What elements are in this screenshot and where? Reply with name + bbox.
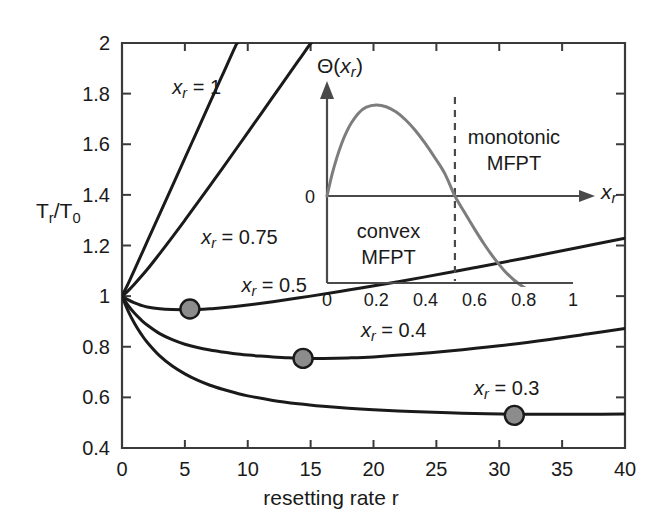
x-tick-label: 40	[614, 458, 636, 480]
inset-y-axis-title: Θ(xr)	[317, 54, 363, 80]
y-tick-label: 1.8	[82, 83, 110, 105]
inset-region-label-line1: convex	[357, 220, 420, 242]
inset-x-tick-label: 0.2	[364, 290, 389, 310]
y-tick-label: 2	[99, 32, 110, 54]
x-tick-label: 15	[300, 458, 322, 480]
y-tick-label: 0.4	[82, 437, 110, 459]
series-label: xr = 0.3	[473, 377, 539, 402]
series-label: xr = 0.5	[240, 274, 306, 299]
figure-container: 0510152025303540 0.40.60.811.21.41.61.82…	[0, 0, 662, 530]
inset-region-label-line2: MFPT	[361, 246, 415, 268]
optimal-point-marker	[505, 406, 524, 425]
y-tick-label: 1.6	[82, 133, 110, 155]
series-label: xr = 0.4	[360, 319, 426, 344]
inset-x-tick-label: 0	[322, 290, 332, 310]
x-tick-label: 0	[116, 458, 127, 480]
y-tick-label: 1	[99, 285, 110, 307]
inset-region-label-line1: monotonic	[468, 126, 560, 148]
inset-region-label-line2: MFPT	[487, 152, 541, 174]
y-tick-labels: 0.40.60.811.21.41.61.82	[82, 32, 110, 459]
x-tick-label: 20	[362, 458, 384, 480]
series-label: xr = 1	[171, 76, 221, 101]
inset-x-tick-label: 0.8	[511, 290, 536, 310]
x-tick-label: 10	[237, 458, 259, 480]
chart-canvas: 0510152025303540 0.40.60.811.21.41.61.82…	[0, 0, 662, 530]
inset-x-tick-label: 1	[568, 290, 578, 310]
x-tick-label: 35	[551, 458, 573, 480]
x-axis-title: resetting rate r	[263, 486, 398, 509]
optimal-point-marker	[180, 300, 199, 319]
optimal-point-marker	[294, 349, 313, 368]
x-tick-label: 25	[425, 458, 447, 480]
y-tick-label: 0.6	[82, 386, 110, 408]
y-tick-label: 1.2	[82, 235, 110, 257]
x-tick-label: 5	[179, 458, 190, 480]
x-tick-label: 30	[488, 458, 510, 480]
inset-zero-label: 0	[305, 187, 315, 207]
y-tick-label: 1.4	[82, 184, 110, 206]
inset-x-tick-label: 0.6	[462, 290, 487, 310]
y-tick-label: 0.8	[82, 336, 110, 358]
inset-x-tick-label: 0.4	[413, 290, 438, 310]
